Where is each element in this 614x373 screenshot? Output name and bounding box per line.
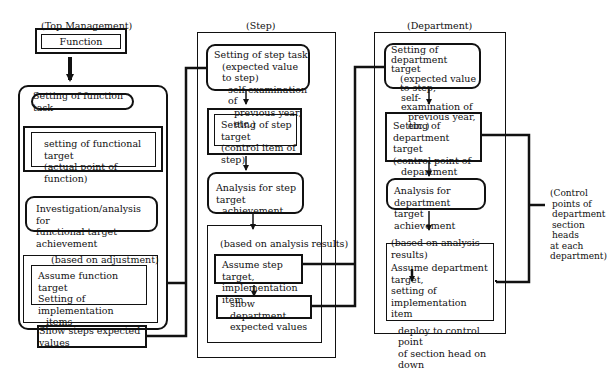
deploy-line2: of section head on down — [391, 348, 501, 371]
step-results-heading: (based on analysis results) — [220, 238, 348, 249]
function-task-step[interactable]: Setting of function task — [31, 93, 134, 110]
assume-step-target-step[interactable]: Assume step target, implementation item — [214, 254, 303, 284]
department-target-step[interactable]: Setting of department target (control po… — [385, 112, 482, 162]
department-task-line1: Setting of department — [391, 45, 479, 64]
assume-department-line3: item — [391, 308, 501, 320]
functional-target-outer: setting of functional target (actual poi… — [23, 126, 163, 172]
note-line6: department) — [550, 251, 614, 262]
assume-function-line1: Assume function target — [38, 270, 146, 293]
assume-department-line2: setting of implementation — [391, 285, 501, 308]
assume-step-line1: Assume step target, — [222, 259, 301, 282]
step-task-line1: Setting of step task — [214, 49, 308, 61]
assume-department-line1: Assume department target, — [391, 262, 501, 285]
step-heading: (Step) — [246, 20, 275, 31]
step-analysis-line2: achievement — [216, 205, 302, 217]
step-analysis-step[interactable]: Analysis for step target achievement — [207, 172, 304, 214]
step-task-step[interactable]: Setting of step task (expected value to … — [206, 44, 310, 91]
functional-target-step[interactable]: setting of functional target (actual poi… — [31, 132, 156, 167]
function-analysis-line2: functional target achievement — [36, 226, 156, 249]
deploy-line1: deploy to control point — [391, 325, 501, 348]
function-analysis-step[interactable]: Investigation/analysis for functional ta… — [25, 196, 158, 232]
department-task-step[interactable]: Setting of department target (expected v… — [384, 43, 481, 89]
department-analysis-line1: Analysis for department — [394, 185, 484, 208]
assume-function-line2: Setting of implementation — [38, 293, 146, 316]
step-target-step[interactable]: Setting of step target (control item of … — [214, 114, 297, 146]
show-department-expected-values-step[interactable]: show department expected values — [216, 295, 312, 319]
assume-function-target-step[interactable]: Assume function target Setting of implem… — [31, 265, 147, 305]
department-results-heading: (based on analysis results) — [391, 237, 501, 260]
functional-target-line1: setting of functional target — [44, 138, 155, 161]
department-task-line3: (expected value to step, — [391, 74, 479, 93]
function-outer-box: Function — [35, 28, 127, 54]
functional-target-line2: (actual point of function) — [44, 161, 155, 184]
department-analysis-step[interactable]: Analysis for department target achieveme… — [386, 178, 486, 210]
department-analysis-line2: target achievement — [394, 208, 484, 231]
department-results-content[interactable]: (based on analysis results) Assume depar… — [391, 237, 501, 371]
step-target-outer: Setting of step target (control item of … — [207, 108, 302, 155]
show-department-line2: expected values — [230, 321, 310, 333]
note-line2: points of — [550, 199, 614, 210]
step-task-line2: (expected value to step) — [214, 61, 308, 84]
step-target-line1: Setting of step target — [221, 119, 296, 142]
step-target-line2: (control item of step) — [221, 142, 296, 165]
show-department-line1: show department — [230, 298, 310, 321]
step-analysis-line1: Analysis for step target — [216, 182, 302, 205]
step-task-line3: self-examination of — [214, 84, 308, 107]
note-line4: section heads — [550, 220, 614, 241]
department-target-line3: (control point of — [393, 155, 480, 167]
department-task-line4: self-examination of — [391, 93, 479, 112]
adjustment-heading: (based on adjustment) — [51, 254, 159, 265]
department-heading: (Department) — [407, 20, 472, 31]
department-target-line2: target — [393, 143, 480, 155]
department-target-line1: Setting of department — [393, 120, 480, 143]
function-label: Function — [60, 36, 103, 48]
function-task-label: Setting of function task — [33, 90, 132, 113]
note-line1: (Control — [550, 188, 614, 199]
note-line5: at each — [550, 241, 614, 252]
function-analysis-line1: Investigation/analysis for — [36, 203, 156, 226]
note-line3: department — [550, 209, 614, 220]
spacer — [18, 328, 168, 330]
function-box[interactable]: Function — [41, 34, 121, 49]
control-points-note: (Control points of department section he… — [550, 188, 614, 262]
